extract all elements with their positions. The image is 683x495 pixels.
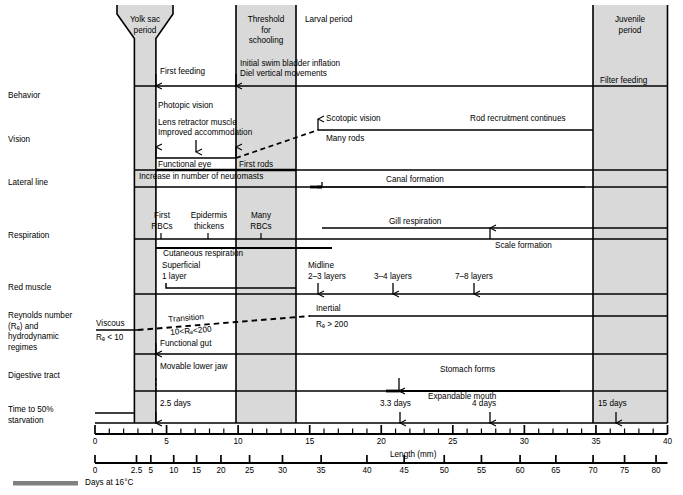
annot-initial-swim-bladder: Initial swim bladder inflation — [240, 59, 340, 70]
annot-filter-feeding: Filter feeding — [600, 76, 647, 87]
row-label-lateral-line: Lateral line — [8, 178, 48, 189]
band-label-threshold: Threshold for schooling — [236, 15, 296, 47]
band-juvenile-period — [593, 5, 668, 423]
row-label-behavior: Behavior — [8, 91, 40, 102]
days-tick-70: 70 — [579, 466, 607, 477]
days-tick-55: 55 — [467, 466, 495, 477]
length-axis — [95, 425, 668, 434]
annot-inertial-re: Rₑ > 200 — [316, 320, 348, 331]
days-tick-80: 80 — [642, 466, 670, 477]
annot-cutaneous-respiration: Cutaneous respiration — [163, 249, 243, 260]
annot-photopic-vision: Photopic vision — [158, 101, 213, 112]
length-tick-40: 40 — [654, 437, 682, 448]
annot-functional-eye: Functional eye — [158, 160, 211, 171]
length-tick-10: 10 — [224, 437, 252, 448]
axis-title-length: Length (mm) — [390, 450, 436, 461]
row-label-digestive-tract: Digestive tract — [8, 371, 60, 382]
red-muscle-markers — [166, 283, 474, 294]
annot-many-rods: Many rods — [326, 134, 364, 145]
annot-diel-vertical: Diel vertical movements — [240, 69, 327, 80]
annot-viscous: Viscous — [96, 319, 125, 330]
band-label-juvenile: Juvenile period — [593, 15, 667, 36]
annot-movable-lower-jaw: Movable lower jaw — [160, 362, 227, 373]
annot-viscous-re: Rₑ < 10 — [96, 333, 123, 344]
length-tick-20: 20 — [367, 437, 395, 448]
annot-superficial-1-layer: Superficial 1 layer — [162, 261, 200, 282]
length-tick-25: 25 — [439, 437, 467, 448]
length-tick-15: 15 — [296, 437, 324, 448]
annot-4-days: 4 days — [472, 399, 496, 410]
length-tick-30: 30 — [510, 437, 538, 448]
annot-many-rbcs: Many RBCs — [238, 211, 284, 232]
annot-midline-2-3-layers: Midline 2–3 layers — [308, 261, 346, 282]
annot-canal-formation: Canal formation — [386, 175, 444, 186]
annot-improved-accommodation: Improved accommodation — [158, 128, 252, 139]
annot-2-5-days: 2.5 days — [160, 399, 191, 410]
row-label-respiration: Respiration — [8, 231, 49, 242]
days-tick-40: 40 — [353, 466, 381, 477]
annot-7-8-layers: 7–8 layers — [455, 272, 493, 283]
length-tick-5: 5 — [153, 437, 181, 448]
annot-lens-retractor: Lens retractor muscle — [158, 118, 237, 129]
annot-scale-formation: Scale formation — [495, 241, 552, 252]
annot-neuromasts: Increase in number of neuromasts — [139, 172, 263, 183]
band-label-larval: Larval period — [305, 15, 352, 26]
days-tick-50: 50 — [430, 466, 458, 477]
days-tick-75: 75 — [611, 466, 639, 477]
axis-title-days: Days at 16°C — [85, 478, 133, 489]
row-label-vision: Vision — [8, 135, 30, 146]
days-tick-25: 25 — [236, 466, 264, 477]
length-tick-0: 0 — [81, 437, 109, 448]
footer-bar — [13, 481, 78, 486]
days-tick-30: 30 — [268, 466, 296, 477]
timeline-figure — [0, 0, 683, 495]
days-axis — [95, 455, 668, 463]
annot-stomach-forms: Stomach forms — [440, 365, 495, 376]
days-tick-0: 0 — [81, 466, 109, 477]
annot-gill-respiration: Gill respiration — [389, 217, 441, 228]
row-label-red-muscle: Red muscle — [8, 283, 51, 294]
row-label-starvation: Time to 50% starvation — [8, 405, 54, 426]
annot-scotopic-vision: Scotopic vision — [326, 114, 381, 125]
figure-canvas: Behavior Vision Lateral line Respiration… — [0, 0, 683, 495]
annot-3-4-layers: 3–4 layers — [374, 272, 412, 283]
annot-functional-gut: Functional gut — [160, 339, 211, 350]
annot-first-feeding: First feeding — [160, 67, 205, 78]
row-label-reynolds: Reynolds number (Rₑ) and hydrodynamic re… — [8, 311, 72, 353]
days-tick-35: 35 — [307, 466, 335, 477]
annot-15-days: 15 days — [598, 399, 627, 410]
band-label-yolk-sac: Yolk sac period — [114, 15, 176, 36]
annot-first-rods: First rods — [239, 160, 273, 171]
days-tick-60: 60 — [506, 466, 534, 477]
annot-epidermis-thickens: Epidermis thickens — [181, 211, 237, 232]
annot-inertial: Inertial — [316, 304, 341, 315]
days-tick-65: 65 — [542, 466, 570, 477]
days-tick-20: 20 — [207, 466, 235, 477]
annot-first-rbcs: First RBCs — [141, 211, 183, 232]
length-tick-35: 35 — [582, 437, 610, 448]
annot-3-3-days: 3.3 days — [380, 399, 411, 410]
annot-rod-recruitment: Rod recruitment continues — [470, 114, 566, 125]
days-tick-45: 45 — [390, 466, 418, 477]
